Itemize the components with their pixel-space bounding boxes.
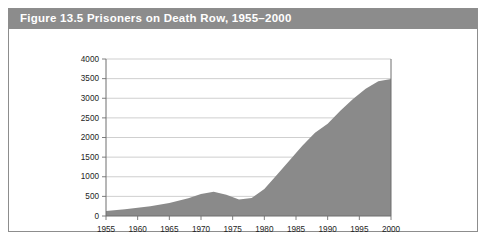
- x-axis-tick-labels: 1955196019651970197519801985199019952000: [97, 225, 401, 232]
- y-axis-tick-labels: 05001000150020002500300035004000: [81, 55, 100, 221]
- x-tick-label: 1955: [97, 225, 116, 232]
- y-tick-label: 3500: [81, 74, 100, 83]
- y-tick-label: 3000: [81, 94, 100, 103]
- x-tick-label: 1980: [255, 225, 274, 232]
- x-tick-label: 2000: [382, 225, 401, 232]
- area-series-path: [106, 79, 391, 216]
- y-tick-label: 1000: [81, 172, 100, 181]
- y-tick-label: 4000: [81, 55, 100, 64]
- x-tick-label: 1970: [192, 225, 211, 232]
- death-row-area-chart: 05001000150020002500300035004000 1955196…: [9, 29, 479, 232]
- x-tick-label: 1975: [224, 225, 243, 232]
- figure-title: Figure 13.5 Prisoners on Death Row, 1955…: [20, 12, 292, 24]
- y-tick-label: 1500: [81, 153, 100, 162]
- y-tick-label: 2500: [81, 114, 100, 123]
- x-tick-label: 1960: [129, 225, 148, 232]
- area-series-group: [106, 79, 391, 216]
- x-tick-label: 1990: [319, 225, 338, 232]
- y-tick-label: 0: [94, 212, 99, 221]
- x-tick-label: 1985: [287, 225, 306, 232]
- x-tick-label: 1965: [160, 225, 179, 232]
- y-tick-label: 2000: [81, 133, 100, 142]
- x-tick-label: 1995: [350, 225, 369, 232]
- figure-card: Figure 13.5 Prisoners on Death Row, 1955…: [8, 8, 478, 232]
- figure-titlebar: Figure 13.5 Prisoners on Death Row, 1955…: [9, 9, 477, 29]
- chart-plot-region: 05001000150020002500300035004000 1955196…: [9, 29, 477, 231]
- y-tick-label: 500: [85, 192, 99, 201]
